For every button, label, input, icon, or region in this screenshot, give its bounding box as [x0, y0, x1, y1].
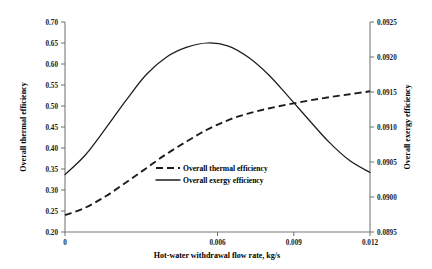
dual-axis-line-chart: 0.200.250.300.350.400.450.500.550.600.65…	[0, 0, 432, 269]
y-axis-right-title: Overall exergy efficiency	[403, 85, 412, 170]
x-axis-ticks: 00.0060.0090.012	[63, 232, 378, 247]
chart-container: 0.200.250.300.350.400.450.500.550.600.65…	[0, 0, 432, 269]
y-axis-left-tick-label: 0.70	[45, 19, 58, 27]
x-axis-tick-label: 0.012	[362, 239, 379, 247]
y-axis-left-tick-label: 0.20	[45, 229, 58, 237]
axes-group	[65, 22, 370, 232]
y-axis-right-ticks: 0.08950.09000.09050.09100.09150.09200.09…	[370, 19, 397, 237]
y-axis-right-tick-label: 0.0920	[377, 54, 397, 62]
y-axis-right-tick-label: 0.0895	[377, 229, 397, 237]
series-overall-thermal-efficiency	[65, 91, 370, 215]
series-group	[65, 43, 370, 215]
y-axis-left-tick-label: 0.60	[45, 61, 58, 69]
y-axis-left-ticks: 0.200.250.300.350.400.450.500.550.600.65…	[45, 19, 65, 237]
y-axis-right-tick-label: 0.0905	[377, 159, 397, 167]
y-axis-left-tick-label: 0.25	[45, 208, 58, 216]
y-axis-right-tick-label: 0.0900	[377, 194, 397, 202]
y-axis-left-tick-label: 0.30	[45, 187, 58, 195]
legend-label-exergy: Overall exergy efficiency	[183, 176, 264, 185]
y-axis-left-tick-label: 0.65	[45, 40, 58, 48]
y-axis-left-tick-label: 0.45	[45, 124, 58, 132]
y-axis-left-title: Overall thermal efficiency	[19, 82, 28, 171]
x-axis-tick-label: 0.009	[286, 239, 303, 247]
y-axis-right-tick-label: 0.0910	[377, 124, 397, 132]
y-axis-right-tick-label: 0.0925	[377, 19, 397, 27]
y-axis-left-tick-label: 0.40	[45, 145, 58, 153]
y-axis-left-tick-label: 0.50	[45, 103, 58, 111]
legend: Overall thermal efficiency Overall exerg…	[156, 164, 268, 185]
series-overall-exergy-efficiency	[65, 43, 370, 175]
y-axis-right-tick-label: 0.0915	[377, 89, 397, 97]
y-axis-left-tick-label: 0.55	[45, 82, 58, 90]
x-axis-title: Hot-water withdrawal flow rate, kg/s	[154, 251, 280, 260]
x-axis-tick-label: 0.006	[209, 239, 226, 247]
y-axis-left-tick-label: 0.35	[45, 166, 58, 174]
legend-label-thermal: Overall thermal efficiency	[183, 164, 268, 173]
x-axis-tick-label: 0	[63, 239, 67, 247]
